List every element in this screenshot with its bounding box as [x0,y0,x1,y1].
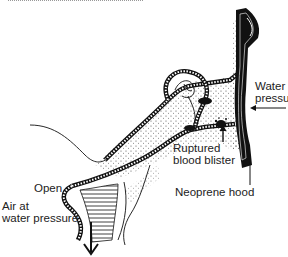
label-air-at-water-pressure: Air at water pressure [2,200,78,224]
label-open: Open [34,182,62,194]
label-ruptured-blood-blister: Ruptured blood blister [173,142,235,166]
water-pressure-arrow-icon [250,105,286,111]
tissue-stipple [95,20,244,205]
label-neoprene-hood: Neoprene hood [175,186,254,198]
label-water-pressure: Water pressure [255,80,288,104]
